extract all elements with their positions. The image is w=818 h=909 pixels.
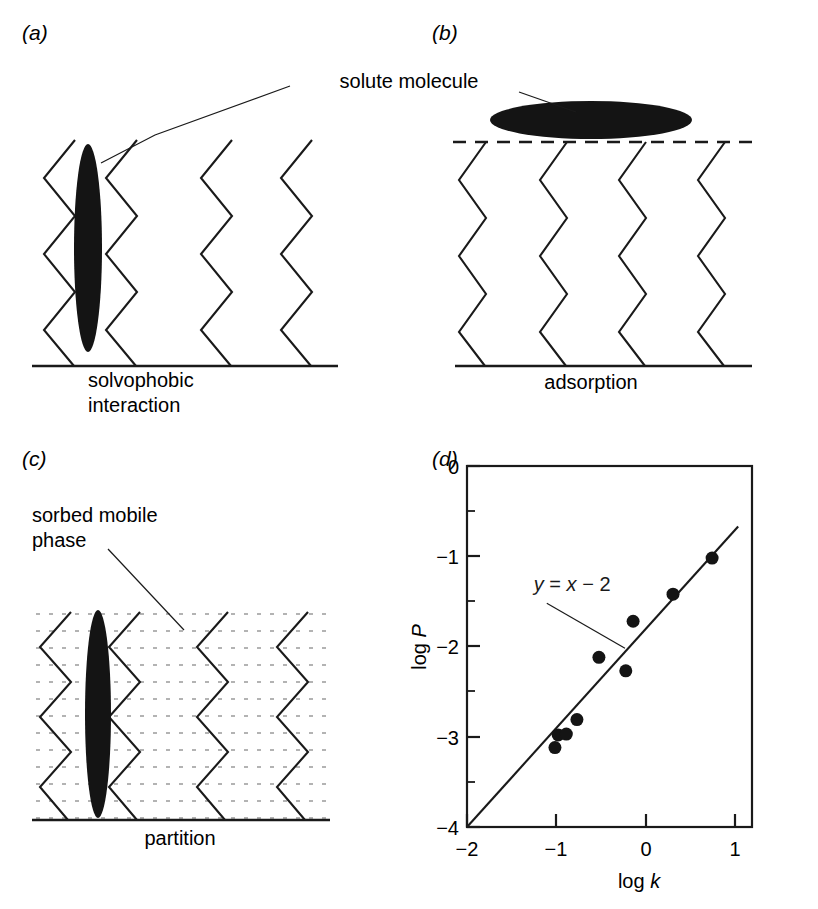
solute-molecule-label: solute molecule (340, 70, 479, 92)
chain (277, 612, 308, 820)
chain (698, 142, 725, 366)
chart-data-point (560, 728, 573, 741)
chain (459, 142, 486, 366)
panel-c-leader-line (108, 549, 184, 630)
panel-b: (b) adsorption (432, 21, 752, 393)
y-tick-label: −3 (436, 727, 459, 749)
solute-molecule-ellipse (490, 101, 692, 139)
chain (281, 140, 312, 366)
panel-c-caption-line1: partition (144, 827, 215, 849)
panel-b-label: (b) (432, 21, 458, 44)
x-tick-label: 1 (729, 838, 740, 860)
y-tick-label: 0 (448, 456, 459, 478)
panel-c: (c) sorbed mobile phase (22, 447, 330, 849)
panel-d-chart: (d) 0 −1 −2 −3 −4 (408, 447, 752, 892)
panel-c-annotation-line1: sorbed mobile (32, 504, 158, 526)
chart-x-axis-label: log k (618, 870, 661, 892)
chart-y-major-ticks (467, 466, 480, 827)
panel-a-label: (a) (22, 21, 48, 44)
y-tick-label: −4 (436, 817, 459, 839)
panel-b-alkyl-chains (459, 142, 725, 366)
chart-data-point (570, 713, 583, 726)
panel-a-leader-line (101, 86, 290, 163)
chart-data-point (619, 664, 632, 677)
chart-data-point (548, 741, 561, 754)
panel-b-caption-line1: adsorption (544, 371, 637, 393)
chain (197, 612, 228, 820)
chain (40, 612, 71, 820)
panel-c-sorbed-mobile-phase-region (36, 614, 326, 818)
figure-canvas: (a) solvophobic interaction solute molec… (0, 0, 818, 909)
chart-y-axis-label: log P (408, 624, 430, 670)
y-tick-label: −2 (436, 636, 459, 658)
y-tick-label: −1 (436, 546, 459, 568)
panel-a-caption-line1: solvophobic (88, 369, 194, 391)
chain (201, 140, 232, 366)
chart-data-point (667, 588, 680, 601)
panel-c-alkyl-chains (40, 612, 308, 820)
chain (109, 612, 140, 820)
x-tick-label: 0 (640, 838, 651, 860)
chart-data-point (592, 651, 605, 664)
panel-a-caption-line2: interaction (88, 394, 180, 416)
solute-molecule-ellipse (74, 144, 102, 352)
chain (106, 140, 137, 366)
chart-data-series: y = x − 2 (467, 526, 738, 827)
figure-chromatography-retention-mechanisms: (a) solvophobic interaction solute molec… (0, 0, 818, 909)
chart-annotation-leader-line (547, 603, 625, 648)
chart-x-major-ticks (467, 814, 735, 827)
solute-molecule-ellipse (85, 610, 111, 818)
x-tick-label: −1 (545, 838, 568, 860)
chart-annotation-equation: y = x − 2 (532, 573, 611, 595)
panel-a: (a) solvophobic interaction (22, 21, 338, 416)
chart-data-point (627, 615, 640, 628)
x-tick-label: −2 (456, 838, 479, 860)
chart-data-point (706, 552, 719, 565)
chain (44, 140, 75, 366)
chain (540, 142, 567, 366)
chart-plot-frame (467, 466, 752, 827)
panel-c-label: (c) (22, 447, 47, 470)
chain (619, 142, 646, 366)
panel-c-annotation-line2: phase (32, 529, 87, 551)
